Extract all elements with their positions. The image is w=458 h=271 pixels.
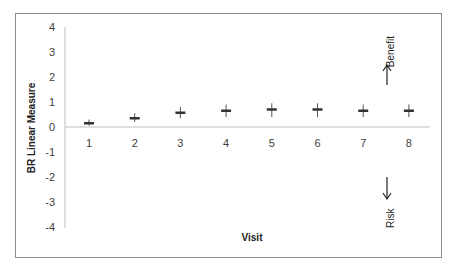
data-point-marker: [313, 103, 323, 117]
risk-annotation: Risk: [383, 177, 396, 228]
x-tick-label: 3: [177, 137, 183, 149]
x-tick-label: 8: [406, 137, 412, 149]
y-tick-label: 0: [49, 121, 55, 133]
benefit-annotation: Benefit: [383, 36, 396, 85]
x-tick-label: 4: [223, 137, 229, 149]
x-tick-label: 6: [314, 137, 320, 149]
y-tick-label: 1: [49, 96, 55, 108]
data-point-marker: [358, 105, 368, 118]
data-points: [84, 103, 414, 126]
arrow-down-icon: [383, 177, 391, 199]
data-point-marker: [221, 105, 231, 118]
data-point-marker: [84, 120, 94, 126]
y-tick-label: -4: [45, 221, 55, 233]
data-point-marker: [267, 103, 277, 117]
y-axis-title: BR Linear Measure: [26, 82, 37, 173]
data-point-marker: [404, 105, 414, 118]
data-point-marker: [130, 113, 140, 122]
x-axis-title: Visit: [242, 232, 264, 243]
risk-label: Risk: [385, 208, 396, 228]
x-tick-label: 2: [132, 137, 138, 149]
data-point-marker: [175, 107, 185, 118]
y-tick-label: -2: [45, 171, 55, 183]
x-tick-labels: 12345678: [86, 137, 412, 149]
x-tick-label: 1: [86, 137, 92, 149]
y-tick-label: 2: [49, 71, 55, 83]
y-tick-label: -3: [45, 196, 55, 208]
benefit-label: Benefit: [385, 36, 396, 67]
y-tick-label: 4: [49, 21, 55, 33]
x-tick-label: 7: [360, 137, 366, 149]
y-tick-label: -1: [45, 146, 55, 158]
x-tick-label: 5: [269, 137, 275, 149]
y-tick-label: 3: [49, 46, 55, 58]
chart-svg: 43210-1-2-3-4 12345678 BR Linear Measure…: [0, 0, 458, 271]
y-tick-labels: 43210-1-2-3-4: [45, 21, 55, 233]
